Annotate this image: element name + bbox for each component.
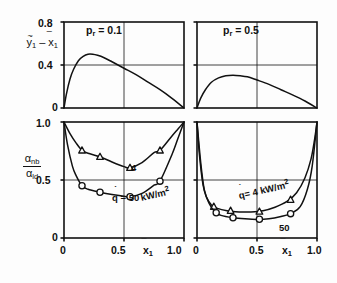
- annotation-pr-right: pr = 0.5: [223, 24, 259, 36]
- qdot-exp-left: 2: [164, 184, 170, 194]
- tick-top-left-y-0.8: 0.8: [38, 17, 53, 29]
- tick-bottom-left-x-1.0: 1.0: [167, 244, 182, 256]
- curve-label-right-triangle: ˙ q= 4 kW/m2: [240, 190, 291, 201]
- pr-value-right: 0.5: [244, 24, 259, 36]
- x-axis-sub-left: 1: [149, 249, 153, 258]
- curve-label-left-triangle: 4: [131, 162, 136, 173]
- tick-top-left-y-0.4: 0.4: [38, 59, 53, 71]
- tick-bottom-left-y-0.5: 0.5: [36, 174, 51, 186]
- tick-bottom-left-x-0: 0: [60, 244, 66, 256]
- x-axis-symbol-left: x: [143, 244, 149, 256]
- tick-bottom-left-y-1.0: 1.0: [36, 117, 51, 129]
- pr-sub-right: r: [229, 29, 232, 38]
- tick-bottom-left-x-0.5: 0.5: [111, 244, 126, 256]
- pr-equals-left: =: [98, 24, 104, 36]
- tick-top-left-y-0: 0: [52, 101, 58, 113]
- x-axis-sub-right: 1: [288, 249, 292, 258]
- annotation-pr-left: pr = 0.1: [86, 24, 122, 36]
- tick-bottom-right-x-0: 0: [193, 244, 199, 256]
- plot-canvas: [0, 0, 337, 283]
- tick-bottom-left-y-0: 0: [52, 231, 58, 243]
- qdot-value-left: = 50: [120, 192, 139, 203]
- curve-label-left-circle: ˙ q = 50 kW/m2: [112, 192, 171, 203]
- x-axis-symbol-right: x: [282, 244, 288, 256]
- pr-sub-left: r: [92, 29, 95, 38]
- figure-container: ~ y1 – ̅ x1 αnb αld 0.8 0.4 0 1.0 0.5 0 …: [0, 0, 337, 283]
- x-axis-label-right: ̅ x1: [282, 244, 292, 256]
- pr-equals-right: =: [235, 24, 241, 36]
- curve-label-right-circle: 50: [279, 222, 290, 233]
- tick-bottom-right-x-1.0: 1.0: [307, 244, 322, 256]
- tick-bottom-right-x-0.5: 0.5: [249, 244, 264, 256]
- x-axis-label-left: ̅ x1: [143, 244, 153, 256]
- pr-value-left: 0.1: [107, 24, 122, 36]
